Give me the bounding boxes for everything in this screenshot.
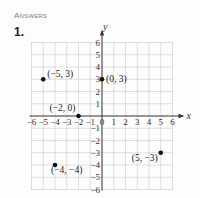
x-tick-label: 6: [170, 117, 175, 127]
x-tick-label: 2: [123, 117, 128, 127]
x-tick-label: 0: [100, 117, 105, 127]
x-tick-label: 5: [159, 117, 164, 127]
y-tick-label: −4: [90, 160, 100, 170]
y-axis-label: y: [102, 21, 108, 32]
y-tick-label: −3: [90, 148, 100, 158]
point-label: (−2, 0): [50, 103, 76, 114]
y-tick-label: 4: [96, 62, 101, 72]
y-tick-label: −1: [90, 123, 100, 133]
x-tick-label: 3: [135, 117, 140, 127]
data-point: [158, 150, 163, 155]
y-tick-label: −6: [90, 185, 100, 195]
y-tick-label: 6: [96, 38, 101, 48]
x-axis-label: x: [186, 110, 192, 121]
data-point: [41, 77, 46, 82]
y-tick-label: −5: [90, 172, 100, 182]
x-tick-label: −4: [50, 117, 60, 127]
point-label: (−4, −4): [51, 165, 82, 176]
point-label: (0, 3): [106, 74, 127, 85]
y-tick-label: −2: [90, 136, 100, 146]
x-axis-arrow-icon: [179, 114, 185, 118]
x-tick-label: −5: [38, 117, 48, 127]
y-tick-label: 5: [96, 50, 101, 60]
data-point: [100, 77, 105, 82]
y-tick-label: 2: [96, 87, 101, 97]
x-tick-label: 1: [112, 117, 117, 127]
y-tick-label: 1: [96, 99, 101, 109]
x-tick-label: 4: [147, 117, 152, 127]
x-tick-label: −6: [27, 117, 37, 127]
point-label: (5, −3): [132, 153, 158, 164]
coordinate-plane: xy−6−5−4−3−2−10123456654321−1−2−3−4−5−6(…: [0, 0, 200, 198]
data-point: [76, 114, 81, 119]
x-tick-label: −3: [62, 117, 72, 127]
x-tick-label: −2: [74, 117, 84, 127]
point-label: (−5, 3): [47, 69, 73, 80]
